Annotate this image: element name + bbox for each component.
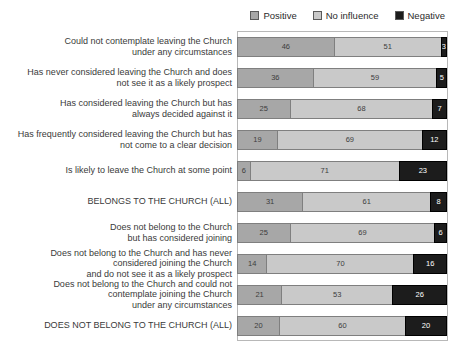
bar-row: Is likely to leave the Church at some po… — [0, 155, 449, 186]
bar-value-label: 61 — [362, 197, 370, 206]
bar-row: Does not belong to the Church and has ne… — [0, 248, 449, 279]
bar-value-label: 71 — [320, 166, 328, 175]
stacked-bar: 25696 — [237, 223, 447, 243]
bar-value-label: 36 — [271, 73, 279, 82]
bar-segment-positive: 25 — [237, 223, 290, 243]
bar-segment-positive: 14 — [237, 254, 266, 274]
bar-segment-negative: 8 — [430, 192, 447, 212]
bar-value-label: 59 — [371, 73, 379, 82]
bar-value-label: 25 — [260, 104, 268, 113]
bar-segment-negative: 3 — [441, 37, 447, 57]
bar-value-label: 14 — [248, 259, 256, 268]
bar-value-label: 26 — [416, 290, 424, 299]
stacked-bar: 206020 — [237, 316, 447, 336]
bar-value-label: 25 — [260, 228, 268, 237]
bar-value-label: 20 — [254, 321, 262, 330]
bar-segment-no-influence: 69 — [290, 223, 435, 243]
bar-segment-no-influence: 70 — [266, 254, 413, 274]
legend-label: Positive — [263, 10, 296, 21]
stacked-bar: 31618 — [237, 192, 447, 212]
bar-segment-no-influence: 61 — [302, 192, 430, 212]
bar-value-label: 68 — [357, 104, 365, 113]
bar-row: Has frequently considered leaving the Ch… — [0, 124, 449, 155]
bar-row: Has considered leaving the Church but ha… — [0, 93, 449, 124]
stacked-bar: 215326 — [237, 285, 447, 305]
bar-segment-no-influence: 53 — [281, 285, 392, 305]
chart-rows: Could not contemplate leaving the Church… — [0, 31, 449, 341]
bar-segment-positive: 6 — [237, 161, 250, 181]
bar-row: DOES NOT BELONG TO THE CHURCH (ALL)20602… — [0, 310, 449, 341]
bar-row: Does not belong to the Church and could … — [0, 279, 449, 310]
bar-value-label: 8 — [437, 197, 441, 206]
bar-value-label: 21 — [255, 290, 263, 299]
stacked-bar: 25687 — [237, 99, 447, 119]
legend-item-no-influence: No influence — [313, 10, 379, 21]
legend-swatch-negative-icon — [395, 11, 404, 20]
bar-value-label: 19 — [253, 135, 261, 144]
bar-value-label: 7 — [438, 104, 442, 113]
legend-item-negative: Negative — [395, 10, 446, 21]
bar-segment-negative: 26 — [392, 285, 447, 305]
category-label: Has never considered leaving the Church … — [0, 67, 237, 88]
bar-segment-negative: 16 — [413, 254, 447, 274]
bar-value-label: 16 — [426, 259, 434, 268]
bar-segment-positive: 36 — [237, 68, 313, 88]
bar-value-label: 70 — [336, 259, 344, 268]
stacked-bar: 67123 — [237, 161, 447, 181]
category-label: Does not belong to the Church but has co… — [0, 222, 237, 243]
bar-segment-positive: 31 — [237, 192, 302, 212]
bar-segment-positive: 21 — [237, 285, 281, 305]
bar-row: Has never considered leaving the Church … — [0, 62, 449, 93]
bar-segment-no-influence: 60 — [279, 316, 405, 336]
bar-segment-no-influence: 51 — [334, 37, 441, 57]
category-label: Could not contemplate leaving the Church… — [0, 36, 237, 57]
bar-segment-positive: 20 — [237, 316, 279, 336]
stacked-bar: 196912 — [237, 130, 447, 150]
bar-value-label: 69 — [346, 135, 354, 144]
bar-value-label: 46 — [282, 42, 290, 51]
bar-segment-no-influence: 69 — [277, 130, 422, 150]
bar-segment-negative: 12 — [422, 130, 447, 150]
bar-segment-positive: 46 — [237, 37, 334, 57]
bar-segment-negative: 6 — [434, 223, 447, 243]
legend-swatch-positive-icon — [250, 11, 259, 20]
bar-value-label: 5 — [440, 73, 444, 82]
bar-value-label: 23 — [419, 166, 427, 175]
bar-segment-negative: 23 — [399, 161, 447, 181]
bar-row: Does not belong to the Church but has co… — [0, 217, 449, 248]
bar-value-label: 6 — [242, 166, 246, 175]
bar-value-label: 60 — [338, 321, 346, 330]
bar-row: BELONGS TO THE CHURCH (ALL)31618 — [0, 186, 449, 217]
legend-item-positive: Positive — [250, 10, 296, 21]
category-label: DOES NOT BELONG TO THE CHURCH (ALL) — [0, 320, 237, 331]
category-label: Does not belong to the Church and could … — [0, 279, 237, 311]
category-label: Does not belong to the Church and has ne… — [0, 248, 237, 280]
legend-swatch-no-influence-icon — [313, 11, 322, 20]
bar-value-label: 6 — [439, 228, 443, 237]
category-label: Has considered leaving the Church but ha… — [0, 98, 237, 119]
bar-value-label: 12 — [430, 135, 438, 144]
category-label: Has frequently considered leaving the Ch… — [0, 129, 237, 150]
bar-segment-negative: 7 — [432, 99, 447, 119]
bar-segment-positive: 19 — [237, 130, 277, 150]
bar-segment-no-influence: 68 — [290, 99, 433, 119]
bar-value-label: 20 — [422, 321, 430, 330]
category-label: Is likely to leave the Church at some po… — [0, 165, 237, 176]
stacked-bar: 46513 — [237, 37, 447, 57]
bar-segment-negative: 20 — [405, 316, 447, 336]
legend-label: No influence — [326, 10, 379, 21]
legend-label: Negative — [408, 10, 446, 21]
bar-value-label: 31 — [266, 197, 274, 206]
category-label: BELONGS TO THE CHURCH (ALL) — [0, 196, 237, 207]
stacked-bar: 147016 — [237, 254, 447, 274]
bar-value-label: 3 — [442, 42, 446, 51]
bar-value-label: 69 — [358, 228, 366, 237]
bar-value-label: 51 — [383, 42, 391, 51]
bar-segment-negative: 5 — [436, 68, 447, 88]
stacked-bar: 36595 — [237, 68, 447, 88]
legend: PositiveNo influenceNegative — [250, 10, 445, 21]
bar-row: Could not contemplate leaving the Church… — [0, 31, 449, 62]
bar-value-label: 53 — [333, 290, 341, 299]
bar-segment-positive: 25 — [237, 99, 290, 119]
bar-segment-no-influence: 59 — [313, 68, 437, 88]
